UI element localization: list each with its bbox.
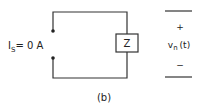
terminal-dot-top bbox=[51, 29, 55, 33]
top-wire bbox=[53, 12, 127, 34]
circuit-diagram: IS= 0 A Z + vn(t) − (b) bbox=[0, 0, 210, 108]
figure-caption: (b) bbox=[97, 92, 111, 103]
bottom-wire bbox=[53, 52, 127, 78]
source-value: = 0 A bbox=[15, 40, 43, 51]
terminal-dot-bottom bbox=[51, 56, 55, 60]
source-label: IS= 0 A bbox=[8, 40, 44, 54]
minus-sign: − bbox=[176, 60, 184, 70]
voltage-subscript: n bbox=[173, 44, 177, 52]
plus-sign: + bbox=[176, 22, 184, 32]
output-voltage-label: vn(t) bbox=[168, 40, 190, 52]
voltage-argument: (t) bbox=[180, 40, 191, 50]
impedance-label: Z bbox=[124, 38, 131, 49]
